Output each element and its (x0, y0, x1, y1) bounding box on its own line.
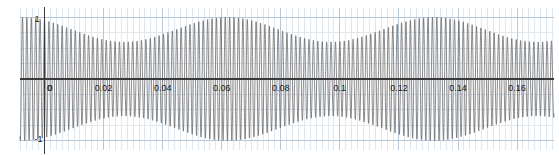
x-tick-label: 0.1 (334, 84, 347, 93)
x-tick-label: 0.14 (449, 84, 467, 93)
y-tick-label: -1 (35, 134, 43, 143)
plot-figure: 00.020.040.060.080.10.120.140.1610-1 (0, 0, 559, 155)
x-tick-label: 0.12 (390, 84, 408, 93)
x-tick-label: 0.04 (154, 84, 172, 93)
x-tick-label: 0.16 (508, 84, 526, 93)
chart-canvas (0, 0, 559, 155)
x-tick-label: 0.02 (95, 84, 113, 93)
y-tick-label: 0 (48, 84, 53, 93)
x-tick-label: 0.08 (272, 84, 290, 93)
y-tick-label: 1 (35, 15, 40, 24)
x-tick-label: 0.06 (213, 84, 231, 93)
